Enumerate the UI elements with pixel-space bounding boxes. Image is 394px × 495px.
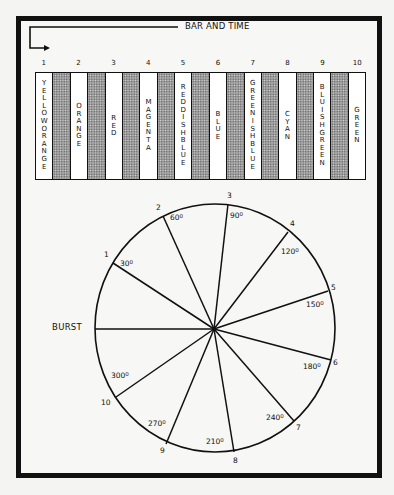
color-bar-bluishgreen: BLUISHGREEN <box>314 73 331 179</box>
color-bar-yellow-orange: YELLOWORANGE <box>36 73 53 179</box>
degree-label: 600 <box>170 213 183 222</box>
bar-number: 7 <box>244 59 262 67</box>
degree-label: 2700 <box>148 419 166 428</box>
bar-number: 3 <box>104 59 122 67</box>
bar-label: BLUISHGREEN <box>314 84 330 168</box>
degree-label: 3000 <box>111 371 129 380</box>
bar-number: 2 <box>70 59 88 67</box>
spoke-number: 5 <box>331 283 336 292</box>
color-bar-blue: BLUE <box>210 73 227 179</box>
bar-number: 1 <box>35 59 53 67</box>
spoke-number: 10 <box>101 398 111 407</box>
gray-bar <box>331 73 348 179</box>
gray-bar <box>53 73 70 179</box>
spoke-number: 8 <box>233 456 238 465</box>
bar-number: 9 <box>313 59 331 67</box>
color-bar-reddishblue: REDDISHBLUE <box>175 73 192 179</box>
degree-label: 900 <box>230 211 243 220</box>
gray-bar <box>88 73 105 179</box>
gray-bar <box>158 73 175 179</box>
spoke-number: 7 <box>296 423 301 432</box>
bar-label: YELLOWORANGE <box>36 80 52 171</box>
bar-number: 5 <box>174 59 192 67</box>
bar-numbers: 12345678910 <box>35 59 366 69</box>
color-bar-cyan: CYAN <box>279 73 296 179</box>
bar-label: ORANGE <box>71 103 87 149</box>
spoke-number: 4 <box>290 219 295 228</box>
gray-bar <box>123 73 140 179</box>
bar-label: MAGENTA <box>140 99 156 152</box>
bar-label: CYAN <box>279 111 295 141</box>
degree-label: 1500 <box>306 300 324 309</box>
degree-label: 2100 <box>206 437 224 446</box>
bar-label: GREENISHBLUE <box>245 80 261 171</box>
bar-number: 6 <box>209 59 227 67</box>
burst-label: BURST <box>52 322 82 332</box>
spoke-number: 1 <box>104 250 109 259</box>
spoke-number: 3 <box>227 191 232 200</box>
bar-label: RED <box>106 115 122 138</box>
color-bar-greenishblue: GREENISHBLUE <box>245 73 262 179</box>
color-bar-orange: ORANGE <box>71 73 88 179</box>
spoke-number: 9 <box>160 446 165 455</box>
gray-bar <box>192 73 209 179</box>
bar-number: 4 <box>139 59 157 67</box>
color-bar-green: GREEN <box>349 73 365 179</box>
bar-label: REDDISHBLUE <box>175 84 191 168</box>
bar-number: 10 <box>348 59 366 67</box>
bar-label: GREEN <box>349 107 365 145</box>
spoke-number: 6 <box>333 358 338 367</box>
degree-label: 2400 <box>266 413 284 422</box>
bar-number: 8 <box>279 59 297 67</box>
gray-bar <box>297 73 314 179</box>
color-bar-red: RED <box>106 73 123 179</box>
degree-label: 1200 <box>281 247 299 256</box>
color-bar-magenta: MAGENTA <box>140 73 157 179</box>
color-bar-strip: YELLOWORANGEORANGEREDMAGENTAREDDISHBLUEB… <box>35 72 366 180</box>
gray-bar <box>262 73 279 179</box>
gray-bar <box>227 73 244 179</box>
degree-label: 300 <box>120 259 133 268</box>
degree-label: 1800 <box>303 362 321 371</box>
diagram-title: BAR AND TIME <box>185 21 249 31</box>
spoke-number: 2 <box>156 203 161 212</box>
bar-label: BLUE <box>210 111 226 141</box>
